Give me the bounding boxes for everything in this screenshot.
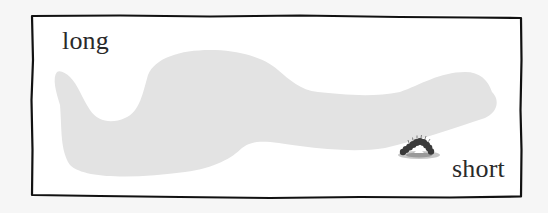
illustration: long short [0, 0, 548, 213]
label-long: long [62, 26, 109, 56]
label-short: short [452, 154, 505, 184]
